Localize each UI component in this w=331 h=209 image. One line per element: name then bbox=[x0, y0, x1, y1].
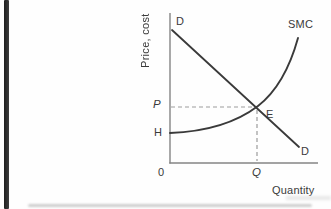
quantity-level-label: Q bbox=[252, 167, 261, 179]
demand-curve bbox=[172, 30, 299, 147]
demand-curve-label-bottom: D bbox=[301, 146, 309, 157]
y-axis-label: Price, cost bbox=[139, 10, 151, 68]
diagram-canvas bbox=[0, 0, 331, 209]
scanned-figure-page: Price, cost D SMC P E H 0 Q D Quantity bbox=[0, 0, 331, 209]
smc-curve-label: SMC bbox=[288, 19, 313, 30]
demand-curve-label-top: D bbox=[176, 16, 184, 27]
smc-intercept-label: H bbox=[154, 127, 162, 138]
smc-curve bbox=[170, 38, 298, 133]
equilibrium-point-label: E bbox=[266, 109, 274, 120]
origin-label: 0 bbox=[158, 167, 164, 178]
x-axis-label: Quantity bbox=[272, 185, 315, 196]
price-level-label: P bbox=[153, 99, 161, 111]
cutoff-text-artifact bbox=[28, 204, 312, 207]
scan-smudge-artifact bbox=[286, 196, 331, 200]
